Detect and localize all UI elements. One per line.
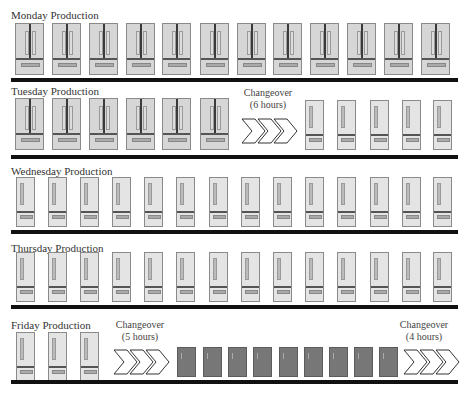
chevron-arrows-icon — [403, 349, 463, 375]
single-door-fridge-icon — [402, 100, 421, 150]
french-door-fridge-icon — [273, 23, 302, 75]
single-door-fridge-icon — [80, 177, 99, 227]
single-door-fridge-icon — [48, 252, 67, 302]
single-door-fridge-icon — [176, 252, 195, 302]
single-door-fridge-icon — [48, 177, 67, 227]
french-door-fridge-icon — [52, 23, 81, 75]
french-door-fridge-icon — [126, 23, 155, 75]
compact-fridge-icon — [279, 347, 298, 377]
compact-fridge-icon — [253, 347, 272, 377]
french-door-fridge-icon — [162, 98, 191, 150]
french-door-fridge-icon — [89, 23, 118, 75]
single-door-fridge-icon — [112, 177, 131, 227]
row-friday: Friday Production Changeover (5 hours) C… — [0, 312, 470, 394]
french-door-fridge-icon — [347, 23, 376, 75]
single-door-fridge-icon — [433, 177, 452, 227]
single-door-fridge-icon — [16, 332, 35, 382]
single-door-fridge-icon — [337, 252, 356, 302]
compact-fridge-icon — [354, 347, 373, 377]
single-door-fridge-icon — [176, 177, 195, 227]
french-door-fridge-icon — [89, 98, 118, 150]
compact-fridge-icon — [177, 347, 196, 377]
single-door-fridge-icon — [433, 100, 452, 150]
row-monday: Monday Production — [0, 0, 470, 82]
french-door-fridge-icon — [200, 23, 229, 75]
single-door-fridge-icon — [48, 332, 67, 382]
changeover-text: Changeover — [228, 87, 308, 99]
single-door-fridge-icon — [370, 252, 389, 302]
single-door-fridge-icon — [402, 177, 421, 227]
french-door-fridge-icon — [15, 23, 44, 75]
compact-fridge-icon — [228, 347, 247, 377]
french-door-fridge-icon — [200, 98, 229, 150]
single-door-fridge-icon — [370, 177, 389, 227]
french-door-fridge-icon — [162, 23, 191, 75]
french-door-fridge-icon — [421, 23, 450, 75]
single-door-fridge-icon — [80, 252, 99, 302]
chevron-arrows-icon — [113, 349, 173, 375]
single-door-fridge-icon — [16, 177, 35, 227]
french-door-fridge-icon — [310, 23, 339, 75]
single-door-fridge-icon — [305, 177, 324, 227]
single-door-fridge-icon — [273, 252, 292, 302]
single-door-fridge-icon — [144, 177, 163, 227]
changeover-label: Changeover (5 hours) — [100, 319, 180, 343]
single-door-fridge-icon — [209, 177, 228, 227]
single-door-fridge-icon — [112, 252, 131, 302]
french-door-fridge-icon — [384, 23, 413, 75]
single-door-fridge-icon — [209, 252, 228, 302]
changeover-text: Changeover — [384, 319, 464, 331]
single-door-fridge-icon — [80, 332, 99, 382]
compact-fridge-icon — [304, 347, 323, 377]
single-door-fridge-icon — [273, 177, 292, 227]
french-door-fridge-icon — [52, 98, 81, 150]
monday-items — [0, 0, 470, 82]
compact-fridge-icon — [379, 347, 398, 377]
french-door-fridge-icon — [15, 98, 44, 150]
row-divider — [11, 305, 458, 309]
single-door-fridge-icon — [402, 252, 421, 302]
chevron-arrows-icon — [241, 118, 301, 144]
single-door-fridge-icon — [433, 252, 452, 302]
single-door-fridge-icon — [337, 100, 356, 150]
single-door-fridge-icon — [337, 177, 356, 227]
changeover-duration: (4 hours) — [384, 331, 464, 343]
french-door-fridge-icon — [126, 98, 155, 150]
changeover-duration: (6 hours) — [228, 99, 308, 111]
row-divider — [11, 230, 458, 234]
french-door-fridge-icon — [237, 23, 266, 75]
changeover-label: Changeover (4 hours) — [384, 319, 464, 343]
changeover-label: Changeover (6 hours) — [228, 87, 308, 111]
wednesday-items — [0, 158, 470, 236]
single-door-fridge-icon — [241, 177, 260, 227]
row-wednesday: Wednesday Production — [0, 158, 470, 236]
row-thursday: Thursday Production — [0, 236, 470, 312]
single-door-fridge-icon — [144, 252, 163, 302]
changeover-duration: (5 hours) — [100, 331, 180, 343]
changeover-text: Changeover — [100, 319, 180, 331]
single-door-fridge-icon — [241, 252, 260, 302]
row-divider — [11, 380, 458, 384]
single-door-fridge-icon — [16, 252, 35, 302]
single-door-fridge-icon — [370, 100, 389, 150]
thursday-items — [0, 236, 470, 312]
single-door-fridge-icon — [305, 252, 324, 302]
row-tuesday: Tuesday Production Changeover (6 hours) — [0, 82, 470, 158]
compact-fridge-icon — [203, 347, 222, 377]
compact-fridge-icon — [329, 347, 348, 377]
